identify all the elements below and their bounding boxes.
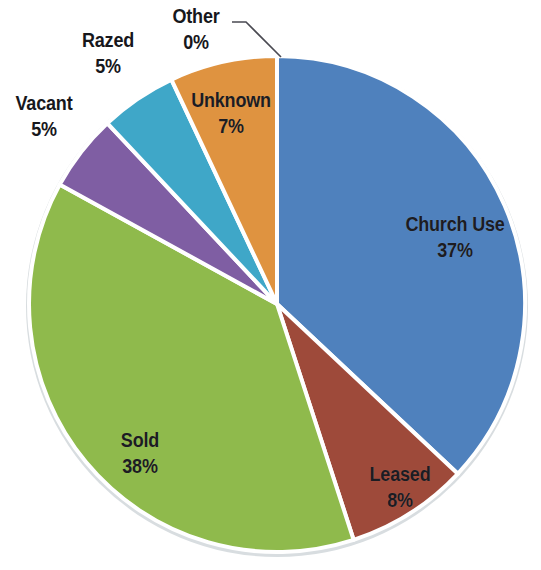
pie-label-vacant: Vacant5% bbox=[0, 91, 107, 142]
pie-label-value: 37% bbox=[392, 238, 518, 264]
pie-label-name: Church Use bbox=[392, 212, 518, 238]
pie-label-name: Vacant bbox=[0, 91, 107, 117]
pie-label-leased: Leased8% bbox=[337, 462, 463, 513]
pie-label-value: 38% bbox=[77, 454, 203, 480]
pie-label-other: Other0% bbox=[133, 4, 259, 55]
pie-label-name: Unknown bbox=[168, 88, 294, 114]
pie-label-church-use: Church Use37% bbox=[392, 212, 518, 263]
pie-label-value: 8% bbox=[337, 488, 463, 514]
pie-label-name: Leased bbox=[337, 462, 463, 488]
pie-label-value: 0% bbox=[133, 30, 259, 56]
pie-label-value: 5% bbox=[0, 117, 107, 143]
pie-label-name: Other bbox=[133, 4, 259, 30]
pie-chart: Church Use37%Leased8%Sold38%Vacant5%Raze… bbox=[0, 0, 541, 570]
pie-label-value: 7% bbox=[168, 114, 294, 140]
pie-label-sold: Sold38% bbox=[77, 428, 203, 479]
pie-label-unknown: Unknown7% bbox=[168, 88, 294, 139]
pie-label-name: Sold bbox=[77, 428, 203, 454]
pie-label-value: 5% bbox=[45, 54, 171, 80]
